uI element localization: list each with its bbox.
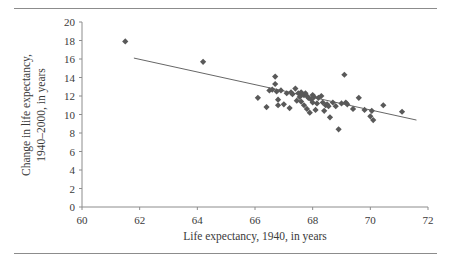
x-tick-label: 68 <box>307 214 319 226</box>
data-point <box>314 100 320 106</box>
y-axis-label-line2: 1940–2000, in years <box>35 68 48 162</box>
data-point <box>272 81 278 87</box>
data-point <box>281 101 287 107</box>
data-point <box>278 87 284 93</box>
y-tick-label: 16 <box>64 53 76 65</box>
data-point <box>327 114 333 120</box>
x-axis-label: Life expectancy, 1940, in years <box>183 230 327 243</box>
x-tick-label: 62 <box>134 214 145 226</box>
data-point <box>292 86 298 92</box>
data-point <box>361 107 367 113</box>
x-tick-label: 70 <box>365 214 377 226</box>
data-point <box>312 107 318 113</box>
data-point <box>272 73 278 79</box>
data-point <box>341 72 347 78</box>
y-tick-label: 2 <box>70 183 76 195</box>
data-point <box>275 97 281 103</box>
x-tick-label: 64 <box>192 214 204 226</box>
y-tick-label: 8 <box>70 127 76 139</box>
y-tick-label: 12 <box>64 90 75 102</box>
y-tick-label: 20 <box>64 16 76 28</box>
data-points <box>122 38 405 132</box>
data-point <box>399 109 405 115</box>
y-axis-label-line1: Change in life expectancy, <box>20 54 33 176</box>
data-point <box>380 102 386 108</box>
data-point <box>287 105 293 111</box>
data-point <box>200 59 206 65</box>
data-point <box>122 38 128 44</box>
x-tick-label: 72 <box>423 214 434 226</box>
x-axis-ticks: 60626466687072 <box>77 207 434 226</box>
x-tick-label: 60 <box>77 214 89 226</box>
data-point <box>255 95 261 101</box>
figure-container: 02468101214161820 60626466687072 Life ex… <box>0 0 451 265</box>
scatter-plot: 02468101214161820 60626466687072 Life ex… <box>0 0 451 265</box>
y-tick-label: 0 <box>70 201 76 213</box>
y-tick-label: 10 <box>64 109 76 121</box>
y-axis-ticks: 02468101214161820 <box>64 16 82 213</box>
y-tick-label: 4 <box>70 164 76 176</box>
data-point <box>369 108 375 114</box>
data-point <box>356 95 362 101</box>
data-point <box>275 102 281 108</box>
x-tick-label: 66 <box>250 214 262 226</box>
y-tick-label: 18 <box>64 35 76 47</box>
data-point <box>321 108 327 114</box>
data-point <box>336 126 342 132</box>
y-tick-label: 6 <box>70 146 76 158</box>
data-point <box>263 104 269 110</box>
y-tick-label: 14 <box>64 72 76 84</box>
